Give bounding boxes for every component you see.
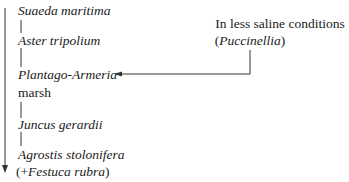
side-branch-condition: In less saline conditions (205, 17, 349, 31)
side-branch-arrow (114, 50, 250, 77)
arrowhead-down-icon (2, 165, 8, 173)
side-branch-species: (Puccinellia) (205, 34, 295, 48)
festuca-note: (+Festuca rubra) (16, 165, 109, 179)
species-plantago-armeria: Plantago-Armeria (18, 68, 117, 82)
succession-arrow (2, 8, 8, 173)
species-juncus-gerardii: Juncus gerardii (18, 118, 103, 132)
species-suaeda-maritima: Suaeda maritima (18, 4, 111, 18)
species-agrostis-stolonifera: Agrostis stolonifera (18, 148, 124, 162)
species-puccinellia: Puccinellia (219, 33, 280, 48)
species-aster-tripolium: Aster tripolium (18, 34, 100, 48)
species-festuca-rubra: Festuca rubra (28, 164, 105, 179)
marsh-label: marsh (18, 86, 51, 100)
